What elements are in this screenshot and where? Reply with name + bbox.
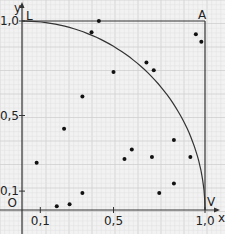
data-point [188, 155, 192, 159]
data-point [97, 19, 101, 23]
corner-label-L: L [26, 9, 33, 23]
data-point [194, 32, 198, 36]
data-point [157, 191, 161, 195]
data-point [150, 155, 154, 159]
x-tick-label: 0,5 [104, 214, 123, 228]
grid [0, 0, 225, 234]
data-point [122, 157, 126, 161]
data-point [90, 30, 94, 34]
y-axis-label: y [14, 1, 21, 15]
axes [0, 2, 220, 234]
x-tick-label: 1,0 [195, 214, 214, 228]
corner-label-A: A [198, 8, 207, 22]
data-point [152, 68, 156, 72]
quarter-circle-arc [22, 21, 205, 210]
data-point [80, 191, 84, 195]
data-point [172, 138, 176, 142]
x-axis-label: x [218, 211, 225, 225]
data-point [55, 204, 59, 208]
data-point [172, 182, 176, 186]
origin-label: O [8, 196, 17, 210]
unit-square [22, 21, 205, 210]
data-point [199, 40, 203, 44]
scatter-chart: 0,10,51,00,10,51,0OyxLAV [0, 0, 225, 234]
data-point [130, 148, 134, 152]
data-point [112, 70, 116, 74]
data-point [35, 161, 39, 165]
data-point [80, 95, 84, 99]
data-point [62, 127, 66, 131]
y-tick-label: 0,5 [0, 109, 19, 123]
corner-label-V: V [207, 195, 216, 209]
labels: 0,10,51,00,10,51,0OyxLAV [0, 1, 225, 228]
data-point [68, 202, 72, 206]
x-tick-label: 0,1 [31, 214, 50, 228]
y-tick-label: 1,0 [0, 14, 19, 28]
data-point [144, 61, 148, 65]
